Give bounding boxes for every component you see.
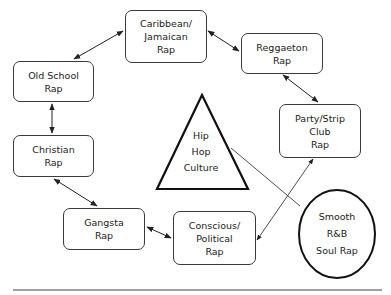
node-label-line: Rap: [44, 82, 62, 95]
node-label-line: Political: [196, 232, 233, 245]
node-label-line: Rap: [273, 54, 291, 67]
center-label-line: Hip: [176, 128, 226, 144]
node-label-line: Rap: [157, 43, 175, 56]
node-label-line: Gangsta: [84, 216, 124, 229]
node-label-line: Rap: [205, 245, 223, 258]
node-label-line: Christian: [32, 143, 74, 156]
node-label-line: Jamaican: [144, 30, 187, 43]
node-label-line: Rap: [311, 138, 329, 151]
node-label-line: Rap: [95, 229, 113, 242]
node-label-line: Party/Strip: [295, 112, 345, 125]
edge-gangsta-christian: [54, 179, 97, 206]
node-label-line: Club: [309, 125, 330, 138]
outlier-label-line: Smooth: [300, 208, 374, 225]
node-reggaeton-rap: Reggaeton Rap: [241, 33, 323, 74]
edge-conscious-gangsta: [147, 227, 171, 238]
node-label-line: Old School: [28, 69, 79, 82]
center-label-line: Hop: [176, 144, 226, 160]
node-label-line: Conscious/: [189, 219, 240, 232]
node-conscious-political-rap: Conscious/ Political Rap: [173, 211, 256, 265]
smooth-rnb-soul-rap-label: Smooth R&B Soul Rap: [300, 208, 374, 259]
edge-caribbean-reggaeton: [208, 31, 239, 51]
edge-oldschool-caribbean: [74, 31, 123, 59]
hip-hop-culture-label: Hip Hop Culture: [176, 128, 226, 176]
node-party-strip-club-rap: Party/Strip Club Rap: [279, 104, 361, 158]
outlier-label-line: R&B: [300, 225, 374, 242]
node-label-line: Rap: [44, 156, 62, 169]
node-old-school-rap: Old School Rap: [13, 61, 94, 102]
node-label-line: Reggaeton: [256, 41, 307, 54]
outlier-label-line: Soul Rap: [300, 242, 374, 259]
node-christian-rap: Christian Rap: [13, 135, 94, 177]
node-label-line: Caribbean/: [140, 17, 192, 30]
edge-reggaeton-party: [283, 75, 318, 102]
node-gangsta-rap: Gangsta Rap: [63, 208, 145, 250]
center-label-line: Culture: [176, 160, 226, 176]
node-caribbean-rap: Caribbean/ Jamaican Rap: [125, 10, 207, 63]
